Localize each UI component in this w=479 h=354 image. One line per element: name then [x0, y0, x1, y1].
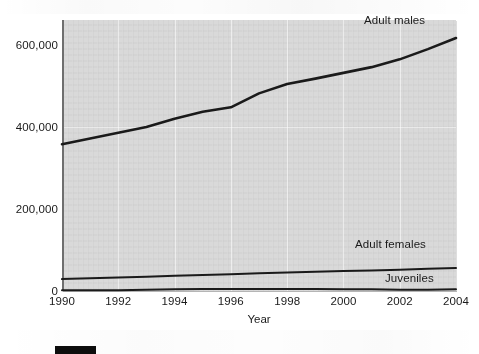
line-chart-figure: 0200,000400,000600,000 19901992199419961… — [0, 0, 479, 354]
series-label-juveniles: Juveniles — [385, 272, 434, 284]
series-line-juveniles — [62, 289, 456, 290]
legend-color-swatch — [55, 346, 96, 354]
series-line-adult-males — [62, 38, 456, 144]
series-lines — [0, 0, 479, 354]
series-label-adult-males: Adult males — [364, 14, 425, 26]
series-label-adult-females: Adult females — [355, 238, 426, 250]
